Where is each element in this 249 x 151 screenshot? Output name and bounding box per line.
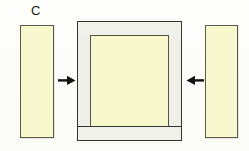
- frame-inner-panel: [90, 35, 169, 127]
- right-side-member: [205, 25, 238, 138]
- frame-right-stile: [168, 35, 182, 127]
- panel-label: C: [31, 4, 41, 17]
- arrow-left-icon: [186, 75, 204, 86]
- center-frame-assembly: [77, 21, 182, 141]
- left-side-member: [20, 25, 54, 138]
- frame-left-stile: [77, 35, 91, 127]
- frame-bottom-rail: [77, 126, 182, 141]
- frame-top-rail: [77, 21, 182, 36]
- figure-panel-c: C: [0, 0, 249, 151]
- arrow-right-icon: [58, 75, 76, 86]
